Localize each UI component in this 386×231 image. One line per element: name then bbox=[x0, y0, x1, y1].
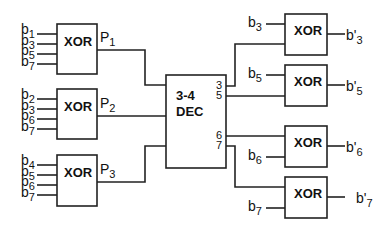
parity-label-p3: P3 bbox=[100, 161, 115, 180]
wire-p1 bbox=[97, 50, 166, 85]
decoder-3-to-4: 3-4 DEC 3 5 6 7 bbox=[166, 75, 226, 168]
decoder-label-line2: DEC bbox=[176, 104, 204, 119]
gate-label: XOR bbox=[64, 34, 93, 49]
circuit-diagram: XOR b1 b3 b5 b7 P1 XOR b2 b3 b6 b7 P2 XO… bbox=[0, 0, 386, 231]
correction-xor-gate-b5: XOR b5 b'5 bbox=[248, 65, 363, 106]
parity-label-p2: P2 bbox=[100, 95, 115, 114]
parity-label-p1: P1 bbox=[100, 29, 115, 48]
input-label: b3 bbox=[248, 14, 262, 33]
gate-label: XOR bbox=[294, 23, 323, 38]
decoder-label-line1: 3-4 bbox=[176, 88, 196, 103]
gate-label: XOR bbox=[64, 165, 93, 180]
output-label: b'3 bbox=[346, 27, 363, 46]
correction-xor-gate-b7: XOR b7 b'7 bbox=[248, 177, 373, 218]
output-label: b'6 bbox=[346, 139, 363, 158]
output-label: b'7 bbox=[356, 190, 373, 209]
correction-xor-gate-b3: XOR b3 b'3 bbox=[248, 14, 363, 55]
decoder-pin-5: 5 bbox=[216, 89, 222, 101]
parity-xor-gate-1: XOR b1 b3 b5 b7 P1 bbox=[21, 21, 115, 74]
gate-label: XOR bbox=[294, 186, 323, 201]
input-label: b7 bbox=[248, 198, 262, 217]
gate-label: XOR bbox=[294, 135, 323, 150]
parity-xor-gate-3: XOR b4 b5 b6 b7 P3 bbox=[21, 152, 115, 206]
output-label: b'5 bbox=[346, 78, 363, 97]
input-label: b5 bbox=[248, 65, 262, 84]
input-label: b6 bbox=[248, 147, 262, 166]
correction-xor-gate-b6: XOR b6 b'6 bbox=[248, 126, 363, 167]
gate-label: XOR bbox=[64, 99, 93, 114]
decoder-pin-7: 7 bbox=[216, 139, 222, 151]
xor-box bbox=[57, 155, 97, 206]
gate-label: XOR bbox=[294, 74, 323, 89]
xor-box bbox=[57, 24, 97, 74]
parity-xor-gate-2: XOR b2 b3 b6 b7 P2 bbox=[21, 86, 115, 139]
xor-box bbox=[57, 89, 97, 139]
